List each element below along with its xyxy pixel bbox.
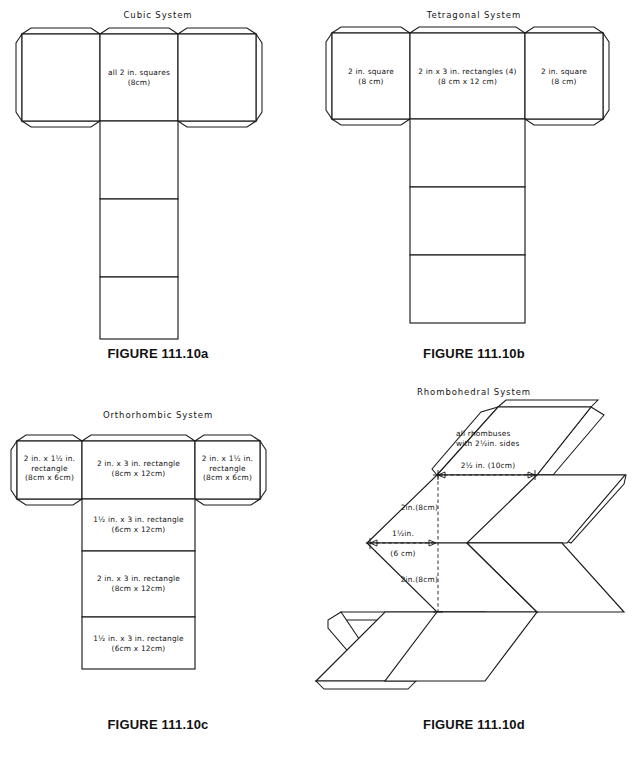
panel-tetragonal-system: Tetragonal System 2 in. square (8 cm) 2 … bbox=[316, 0, 632, 378]
face-rect-row4 bbox=[82, 617, 195, 669]
tab-top-center bbox=[410, 27, 525, 33]
tab-right-side bbox=[256, 34, 262, 121]
face-rect-row3 bbox=[82, 551, 195, 617]
figure-page: Cubic System all 2 in. squares (8cm) FIG… bbox=[0, 0, 632, 757]
face-square-col3 bbox=[100, 277, 178, 339]
tab-left-side bbox=[11, 441, 17, 499]
face-square-left bbox=[332, 33, 410, 119]
tetragonal-net-diagram bbox=[316, 0, 632, 378]
cubic-net-diagram bbox=[0, 0, 316, 378]
face-square-col1 bbox=[100, 121, 178, 199]
face-rect-row2 bbox=[82, 499, 195, 551]
tab-bottom-right bbox=[525, 119, 603, 125]
face-square-right bbox=[525, 33, 603, 119]
face-square-left bbox=[22, 34, 100, 121]
tab-bottom-right bbox=[195, 499, 260, 505]
tab-top-left bbox=[332, 27, 410, 33]
face-rect-center bbox=[410, 33, 525, 119]
face-rect-col1 bbox=[410, 119, 525, 187]
tab-left-side bbox=[16, 34, 22, 121]
tab-top-right bbox=[525, 27, 603, 33]
caption-figure-a: FIGURE 111.10a bbox=[0, 346, 316, 361]
tab-upper-top bbox=[498, 400, 598, 407]
tab-top-left bbox=[17, 435, 82, 441]
face-rect-col2 bbox=[410, 187, 525, 255]
tab-top-center bbox=[100, 28, 178, 34]
tab-top-center bbox=[82, 435, 195, 441]
face-square-center bbox=[100, 34, 178, 121]
tab-bottom-left bbox=[22, 121, 100, 127]
face-rect-col3 bbox=[410, 255, 525, 323]
caption-figure-d: FIGURE 111.10d bbox=[316, 717, 632, 732]
face-rect-left bbox=[17, 441, 82, 499]
tab-right-side bbox=[603, 33, 609, 119]
caption-figure-c: FIGURE 111.10c bbox=[0, 717, 316, 732]
face-rect-top bbox=[82, 441, 195, 499]
tab-bottom-left bbox=[17, 499, 82, 505]
tab-top-right bbox=[195, 435, 260, 441]
caption-figure-b: FIGURE 111.10b bbox=[316, 346, 632, 361]
tab-left-side bbox=[326, 33, 332, 119]
tab-bottom-left bbox=[332, 119, 410, 125]
face-square-col2 bbox=[100, 199, 178, 277]
tab-top-right bbox=[178, 28, 256, 34]
face-rect-right bbox=[195, 441, 260, 499]
tab-bottom-right bbox=[178, 121, 256, 127]
rhombohedral-net-diagram bbox=[316, 379, 632, 757]
panel-orthorhombic-system: Orthorhombic System 2 in. x 1½ in. recta… bbox=[0, 379, 316, 757]
orthorhombic-net-diagram bbox=[0, 379, 316, 757]
tab-right-side bbox=[260, 441, 266, 499]
tab-top-left bbox=[22, 28, 100, 34]
panel-cubic-system: Cubic System all 2 in. squares (8cm) FIG… bbox=[0, 0, 316, 378]
face-square-right bbox=[178, 34, 256, 121]
tab-lower-left-bottom bbox=[316, 681, 416, 689]
panel-rhombohedral-system: Rhombohedral System bbox=[316, 379, 632, 757]
